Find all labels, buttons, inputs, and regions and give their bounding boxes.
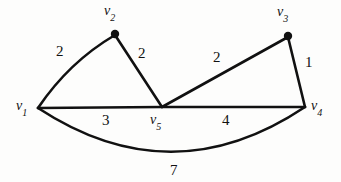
graph-diagram: v1 v2 v3 v4 v5 2 2 2 1 3 4 7	[0, 0, 341, 182]
vertex-label-v1: v1	[16, 99, 27, 116]
vertex-label-v2: v2	[104, 4, 115, 21]
vertex-label-v3-subscript: 3	[283, 13, 288, 24]
edge-weight-v1-v2: 2	[56, 44, 64, 59]
vertex-label-v4-subscript: 4	[317, 107, 322, 118]
vertex-dot-v2	[111, 30, 119, 38]
edge-weight-v1-v4: 7	[170, 163, 178, 178]
vertex-dot-v3	[284, 32, 292, 40]
edge-weight-v1-v5: 3	[102, 113, 110, 128]
vertex-label-v5: v5	[150, 113, 161, 130]
vertex-label-v1-subscript: 1	[22, 107, 27, 118]
vertex-label-v4: v4	[311, 99, 322, 116]
edge-v3-v4	[288, 37, 305, 107]
edge-weight-v2-v5: 2	[138, 46, 146, 61]
edge-weight-v5-v4: 4	[222, 113, 230, 128]
edge-weight-v5-v3: 2	[213, 50, 221, 65]
edge-v5-v3	[162, 37, 288, 107]
edge-v1-v2	[38, 35, 115, 108]
vertex-label-v5-subscript: 5	[156, 121, 161, 132]
edge-v1-v4-arc	[38, 107, 305, 152]
vertex-label-v2-subscript: 2	[110, 12, 115, 23]
edge-weight-v3-v4: 1	[305, 55, 313, 70]
edge-v1-v5-v4-baseline	[38, 107, 305, 108]
vertex-label-v3: v3	[277, 5, 288, 22]
graph-canvas	[0, 0, 341, 182]
